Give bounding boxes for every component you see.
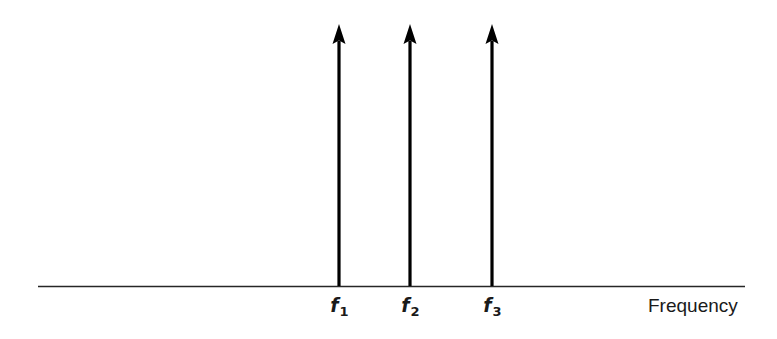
x-axis-title: Frequency (648, 296, 738, 315)
spectral-line-f2 (404, 24, 417, 286)
x-tick-label-f3-base: f (483, 294, 491, 316)
x-tick-label-f1: f1 (330, 296, 347, 315)
x-tick-label-f1-base: f (330, 294, 338, 316)
x-tick-label-f2-subscript: 2 (411, 304, 420, 319)
figure-canvas: f1 f2 f3 Frequency (0, 0, 777, 339)
line-spectrum-plot (0, 0, 777, 339)
spectral-line-f3 (486, 24, 499, 286)
x-tick-label-f1-subscript: 1 (340, 304, 349, 319)
x-tick-label-f3: f3 (483, 296, 500, 315)
x-tick-label-f3-subscript: 3 (493, 304, 502, 319)
spectral-line-f1 (333, 24, 346, 286)
x-tick-label-f2: f2 (401, 296, 418, 315)
x-tick-label-f2-base: f (401, 294, 409, 316)
